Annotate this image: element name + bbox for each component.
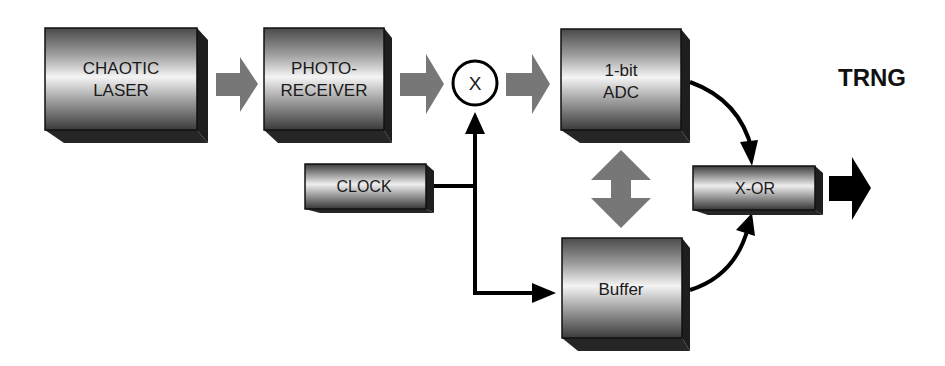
buffer-to-xor-curve (690, 228, 748, 290)
adc-block: 1-bit ADC (561, 29, 690, 143)
signal-arrow-icon (400, 54, 444, 114)
adc-to-xor-curve (690, 82, 752, 150)
bidirectional-arrow-icon (591, 150, 651, 228)
photoreceiver-label-1: PHOTO- (291, 59, 357, 78)
clock-distribution-lines (434, 125, 535, 293)
clock-label: CLOCK (336, 178, 391, 195)
buffer-label: Buffer (598, 280, 643, 299)
buffer-block: Buffer (562, 238, 690, 351)
arrow-up-icon (736, 213, 755, 236)
diagram-canvas: CHAOTIC LASER PHOTO- RECEIVER X 1-bit AD… (0, 0, 945, 366)
photoreceiver-label-2: RECEIVER (281, 81, 368, 100)
output-arrow-icon (829, 157, 871, 220)
arrow-up-icon (465, 112, 485, 134)
photoreceiver-block: PHOTO- RECEIVER (264, 28, 392, 143)
mixer-node: X (453, 61, 497, 105)
chaotic-laser-label-1: CHAOTIC (83, 59, 160, 78)
arrow-down-icon (740, 140, 758, 166)
mixer-label: X (469, 73, 482, 94)
xor-block: X-OR (693, 166, 823, 215)
clock-block: CLOCK (305, 164, 434, 213)
signal-arrow-icon (216, 57, 258, 112)
chaotic-laser-label-2: LASER (93, 81, 149, 100)
adc-label-1: 1-bit (604, 61, 637, 80)
chaotic-laser-block: CHAOTIC LASER (45, 28, 208, 143)
trng-output-label: TRNG (838, 64, 906, 91)
adc-label-2: ADC (603, 83, 639, 102)
arrow-right-icon (532, 283, 556, 303)
signal-arrow-icon (506, 54, 550, 114)
xor-label: X-OR (735, 180, 775, 197)
